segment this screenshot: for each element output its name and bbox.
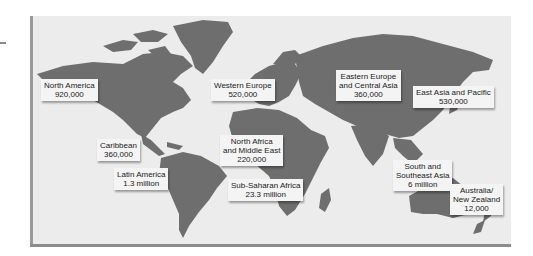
label-north-africa-middle-east: North Africa and Middle East 220,000: [220, 135, 283, 166]
label-north-america: North America 920,000: [41, 79, 98, 101]
edge-mark: [0, 42, 6, 44]
label-caribbean: Caribbean 360,000: [97, 139, 140, 161]
label-latin-america: Latin America 1.3 million: [114, 168, 168, 190]
label-sub-saharan-africa: Sub-Saharan Africa 23.3 million: [228, 179, 303, 201]
world-map-land: [33, 16, 511, 244]
world-map: North America 920,000 Western Europe 520…: [30, 16, 511, 244]
label-eastern-europe-central-asia: Eastern Europe and Central Asia 360,000: [336, 70, 401, 101]
label-western-europe: Western Europe 520,000: [211, 79, 275, 101]
label-australia-new-zealand: Australia/ New Zealand 12,000: [450, 184, 503, 215]
label-south-southeast-asia: South and Southeast Asia 6 million: [393, 160, 452, 191]
label-east-asia-pacific: East Asia and Pacific 530,000: [413, 86, 494, 108]
